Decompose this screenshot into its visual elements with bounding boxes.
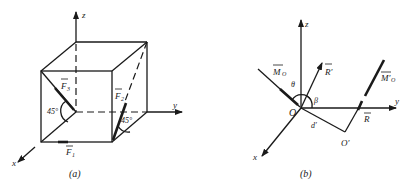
resultant-label: R [363,113,371,124]
statics-diagram: z y x F 3 45° F [0,0,411,184]
caption-b: (b) [300,168,312,180]
f2-label: F 2 [114,89,124,102]
y-axis-label-b: y [394,96,399,106]
cube-edge-tl [41,42,76,71]
svg-text:M′: M′ [380,73,391,83]
origin-label: O [289,107,296,118]
svg-text:F: F [60,81,67,91]
svg-text:R: R [363,114,370,124]
svg-text:F: F [65,147,72,157]
beta-label: β [313,96,318,105]
svg-text:2: 2 [121,96,124,102]
figure-a: z y x F 3 45° F [11,10,182,180]
svg-text:1: 1 [72,152,75,158]
f3-label: F 3 [60,79,70,92]
figure-b: z y x M O R′ θ β O d′ O′ [252,19,399,180]
svg-text:R′: R′ [324,67,333,77]
f1-label: F 1 [65,146,75,158]
origin-prime-label: O′ [341,138,350,148]
theta-label: θ [291,80,295,89]
x-axis-label-a: x [11,158,16,168]
moment-prime-label: M′ O [380,72,396,83]
svg-text:3: 3 [66,86,70,92]
svg-text:O: O [391,77,396,83]
angle-arc-f2 [118,126,130,132]
distance-label: d′ [311,121,317,130]
x-axis-a [18,147,35,162]
x-axis-label-b: x [252,152,257,162]
beta-arc [307,96,312,108]
caption-a: (a) [69,168,81,180]
angle-arc-f3 [61,101,68,122]
svg-text:M: M [272,67,281,77]
svg-text:O: O [282,71,287,77]
moment-label: M O [272,65,287,77]
distance-line [301,108,345,132]
cube-bottom-diagonal [41,112,76,142]
z-axis-label-a: z [81,10,86,20]
svg-text:F: F [114,91,121,101]
z-axis-label-b: z [304,19,309,29]
angle-label-f2: 45° [121,116,133,125]
angle-label-f3: 45° [47,107,59,116]
y-axis-label-a: y [172,100,177,110]
resultant-prime-label: R′ [324,64,333,77]
